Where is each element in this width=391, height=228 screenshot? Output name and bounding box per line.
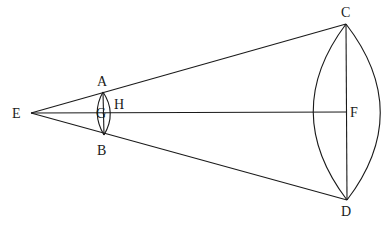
line-ED [31, 113, 347, 200]
line-EC [31, 24, 346, 113]
label-A: A [97, 74, 108, 89]
label-F: F [350, 105, 358, 120]
label-G: G [96, 106, 106, 121]
diagram-canvas: E A B G H C D F [0, 0, 391, 228]
line-EF-axis [31, 112, 346, 113]
label-E: E [12, 106, 21, 121]
label-B: B [97, 143, 106, 158]
label-D: D [341, 204, 351, 219]
label-C: C [341, 5, 350, 20]
geometric-diagram: E A B G H C D F [0, 0, 391, 228]
chord-CD [346, 24, 347, 200]
label-H: H [114, 97, 124, 112]
